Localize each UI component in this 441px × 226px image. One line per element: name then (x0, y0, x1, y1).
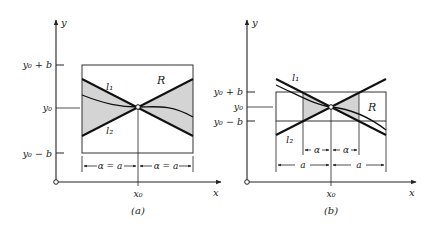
diagram-canvas: y x y₀ + b y₀ y₀ − b x₀ l₁ l₂ R α = a α … (0, 0, 441, 226)
panel-b-tick-label-y-top: y₀ + b (213, 86, 243, 97)
panel-a-y-axis-label: y (60, 17, 67, 28)
panel-a-tick-label-x0: x₀ (133, 188, 142, 199)
panel-a-tick-label-y-bot: y₀ − b (22, 148, 52, 159)
panel-b-caption: (b) (324, 205, 338, 216)
panel-b-dim-inner-left-label: α (314, 145, 320, 155)
panel-b-y-axis-label: y (251, 17, 258, 28)
panel-a-caption: (a) (131, 205, 145, 216)
panel-a-point-x0-y0 (136, 105, 141, 110)
panel-b-label-R: R (367, 101, 376, 114)
panel-b-tick-label-y-bot: y₀ − b (213, 116, 243, 127)
figure: y x y₀ + b y₀ y₀ − b x₀ l₁ l₂ R α = a α … (0, 0, 441, 226)
panel-b-dim-outer-right-label: a (356, 160, 361, 170)
panel-b-x-axis-label: x (409, 187, 415, 198)
panel-b-tick-label-y-mid: y₀ (233, 101, 243, 112)
panel-a-x-axis-label: x (213, 187, 219, 198)
panel-a-label-l1: l₁ (106, 81, 113, 92)
panel-b-dim-inner-right-label: α (343, 145, 349, 155)
panel-b-point-x0-y0 (329, 105, 334, 110)
panel-b-dim-outer-left-label: a (300, 160, 305, 170)
panel-a-tick-label-y-top: y₀ + b (22, 59, 52, 70)
panel-a-origin-marker (54, 180, 59, 185)
panel-a-label-l2: l₂ (106, 125, 113, 136)
panel-a: y x y₀ + b y₀ y₀ − b x₀ l₁ l₂ R α = a α … (22, 17, 221, 216)
panel-b-origin-marker (245, 180, 250, 185)
panel-a-dim-left-label: α = a (98, 161, 123, 171)
panel-b: y x y₀ + b y₀ y₀ − b x₀ l₁ l₂ R α α a a … (213, 17, 416, 216)
panel-a-label-R: R (156, 74, 165, 87)
panel-a-tick-label-y-mid: y₀ (42, 102, 52, 113)
panel-b-tick-label-x0: x₀ (326, 188, 335, 199)
panel-b-label-l2: l₂ (286, 134, 293, 145)
panel-b-label-l1: l₁ (292, 72, 299, 83)
panel-a-dim-right-label: α = a (154, 161, 179, 171)
